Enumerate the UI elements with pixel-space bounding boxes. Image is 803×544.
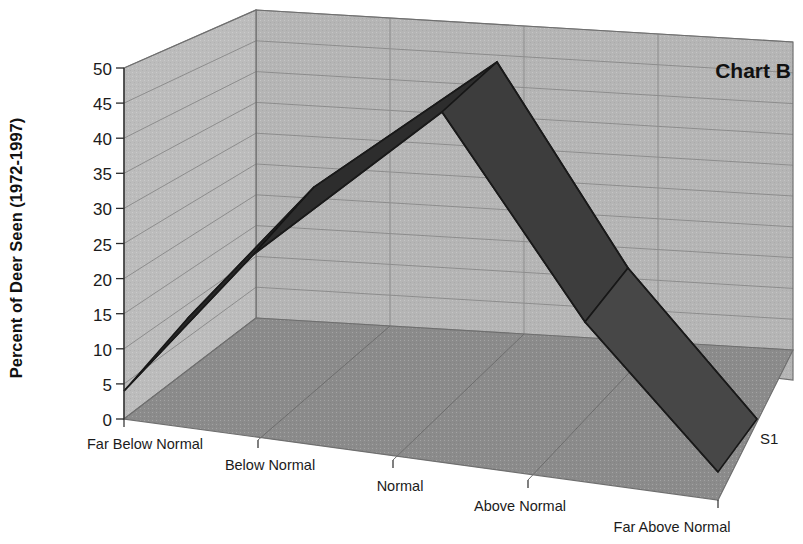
deer-percentage-3d-area-chart: 50 45 40 35 30 25 20 15 10 5 0 Percent o…	[0, 0, 803, 544]
y-axis-title: Percent of Deer Seen (1972-1997)	[7, 118, 25, 378]
chart-title: Chart B	[715, 59, 791, 82]
x-category-label-far-above-normal: Far Above Normal	[614, 519, 731, 535]
y-tick-label-50: 50	[93, 60, 112, 79]
y-tick-label-20: 20	[93, 271, 112, 290]
x-category-label-below-normal: Below Normal	[225, 457, 315, 473]
x-category-label-far-below-normal: Far Below Normal	[87, 436, 203, 452]
y-tick-label-15: 15	[93, 306, 112, 325]
y-tick-label-45: 45	[93, 95, 112, 114]
chart-container: 50 45 40 35 30 25 20 15 10 5 0 Percent o…	[0, 0, 803, 544]
y-tick-label-10: 10	[93, 341, 112, 360]
x-category-label-normal: Normal	[377, 478, 424, 494]
y-tick-label-5: 5	[103, 376, 112, 395]
y-tick-label-0: 0	[103, 411, 112, 430]
y-tick-label-25: 25	[93, 236, 112, 255]
series-label-s1: S1	[760, 430, 778, 447]
y-tick-label-35: 35	[93, 165, 112, 184]
x-category-label-above-normal: Above Normal	[474, 498, 566, 514]
y-tick-label-30: 30	[93, 200, 112, 219]
y-tick-label-40: 40	[93, 130, 112, 149]
